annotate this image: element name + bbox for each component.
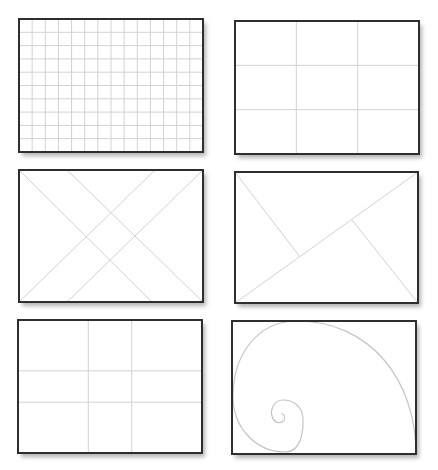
panel-rule-of-thirds [235, 21, 422, 158]
panel-square-grid [19, 19, 206, 156]
panel-golden-triangles [235, 172, 421, 307]
composition-guides-canvas [0, 0, 438, 470]
frame-background [19, 170, 203, 302]
panel-phi-grid [18, 320, 205, 457]
panel-golden-spiral [232, 321, 419, 458]
panel-diagonal-method [19, 170, 206, 306]
frame-background [232, 321, 416, 454]
frame-background [18, 320, 202, 453]
frame-background [235, 21, 419, 154]
